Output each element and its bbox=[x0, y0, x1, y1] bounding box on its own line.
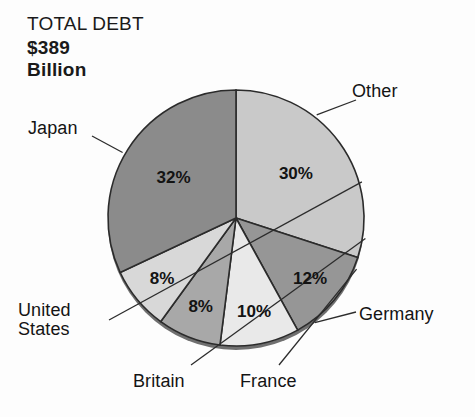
pie-value-united-states: 8% bbox=[150, 269, 175, 288]
pie-value-germany: 12% bbox=[293, 269, 327, 288]
leader-line-other bbox=[317, 100, 356, 115]
pie-chart-figure: TOTAL DEBT $389 Billion 30%12%10%8%8%32%… bbox=[0, 0, 475, 417]
pie-value-other: 30% bbox=[279, 164, 313, 183]
slice-label-other: Other bbox=[352, 82, 398, 101]
leader-line-japan bbox=[92, 136, 123, 153]
slice-label-france: France bbox=[240, 372, 297, 391]
pie-chart-svg: 30%12%10%8%8%32% bbox=[0, 0, 475, 417]
pie-value-japan: 32% bbox=[156, 168, 190, 187]
pie-chart: 30%12%10%8%8%32% bbox=[0, 0, 475, 417]
pie-value-france: 10% bbox=[237, 302, 271, 321]
slice-label-britain: Britain bbox=[133, 372, 185, 391]
slice-label-united-states: United States bbox=[18, 301, 71, 339]
slice-label-united-states-line2: States bbox=[18, 320, 71, 339]
pie-value-britain: 8% bbox=[188, 297, 213, 316]
slice-label-japan: Japan bbox=[28, 119, 78, 138]
slice-label-germany: Germany bbox=[359, 305, 434, 324]
slice-label-united-states-line1: United bbox=[18, 300, 71, 320]
